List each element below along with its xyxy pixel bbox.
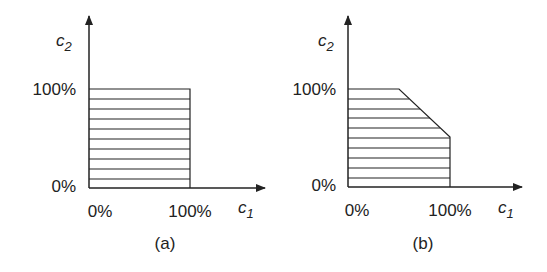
y-tick-0: 0% [51,177,76,196]
x-tick-100: 100% [428,201,471,220]
y-axis-label: c2 [318,31,335,54]
y-tick-100: 100% [293,80,336,99]
x-axis-label: c1 [238,198,254,221]
x-axis-label: c1 [498,198,514,221]
x-tick-100: 100% [168,202,211,221]
feasible-region-square [89,89,190,188]
caption-b: (b) [413,234,434,253]
panel-b: c2 100% 0% 0% 100% c1 (b) [293,16,522,253]
feasible-region-pentagon [348,89,450,187]
caption-a: (a) [155,234,176,253]
x-tick-0: 0% [345,201,370,220]
y-axis-label: c2 [56,31,73,54]
x-tick-0: 0% [88,202,113,221]
y-tick-100: 100% [33,80,76,99]
panel-a: c2 100% 0% 0% 100% c1 (a) [33,16,265,253]
y-tick-0: 0% [311,176,336,195]
diagram-canvas: c2 100% 0% 0% 100% c1 (a) c2 100% 0% 0% … [0,0,547,272]
